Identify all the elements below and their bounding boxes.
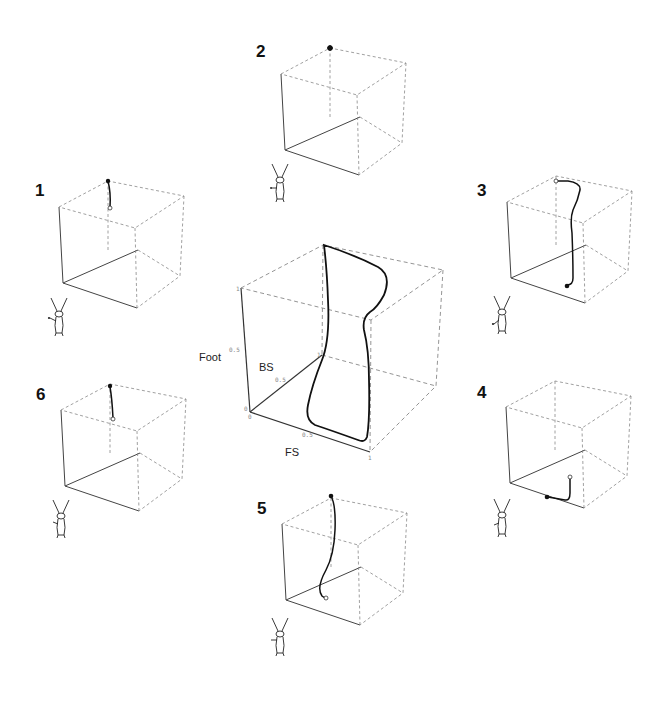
panel-label-3: 3 [477,181,486,200]
insect-icon-4 [494,499,510,537]
panel-5: 5 [257,494,407,656]
panel-1: 1 [35,179,184,336]
main-plot: 1 0.5 0 0 0.5 1 0.5 1 Foot BS FS [199,245,443,461]
bs-tick-1: 1 [317,351,321,358]
marker-start-4 [568,475,572,479]
panel-label-5: 5 [257,499,266,518]
marker-end-5 [324,596,328,600]
cube-5 [282,494,407,625]
foot-axis [241,288,250,412]
foot-axis-label: Foot [199,351,221,363]
marker-end-1 [108,206,112,210]
panel-label-2: 2 [256,42,265,61]
cube-4 [506,381,631,508]
insect-icon-5 [271,618,288,656]
insect-icon-1 [48,298,67,336]
insect-icon-3 [492,296,510,334]
marker-start-3 [554,179,558,183]
marker-end-4 [545,495,550,500]
panel-2: 2 [256,42,406,202]
bs-tick-0: 0 [248,413,252,420]
insect-icon-2 [270,164,288,202]
bs-tick-0.5: 0.5 [275,376,286,383]
panel-4: 4 [477,381,631,537]
bs-axis-label: BS [259,361,274,373]
cube-2 [281,45,406,175]
fs-tick-0.5: 0.5 [302,431,313,438]
foot-tick-1: 1 [236,285,240,292]
foot-tick-0.5: 0.5 [229,346,240,353]
cube-1 [59,179,184,308]
figure-canvas: 2 1 [0,0,659,703]
trajectory-2 [327,45,333,51]
trajectory-1 [106,179,112,210]
main-trajectory [307,245,387,441]
fs-axis-label: FS [285,446,299,458]
panel-label-6: 6 [36,385,45,404]
panel-label-1: 1 [35,181,44,200]
insect-icon-6 [53,500,69,538]
trajectory-6 [108,384,115,421]
trajectory-3 [554,179,580,288]
foot-tick-0: 0 [244,405,248,412]
marker-end-6 [111,417,115,421]
cube-3 [507,176,632,303]
marker-start-5 [329,494,334,499]
panel-6: 6 [36,384,186,538]
marker-start-1 [106,179,110,183]
panel-label-4: 4 [477,383,487,402]
fs-tick-1: 1 [368,454,372,461]
marker-start-6 [108,384,112,388]
marker-end-3 [565,284,570,289]
panel-3: 3 [477,176,632,334]
trajectory-4 [545,475,572,500]
cube-6 [61,384,186,511]
